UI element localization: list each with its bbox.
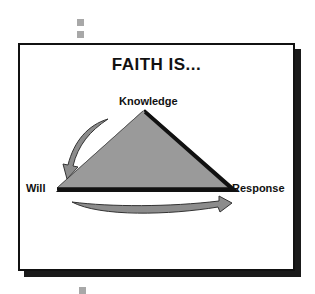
bullet-square-bottom xyxy=(79,287,86,294)
slide-panel: FAITH IS... Knowledge Will Response xyxy=(18,43,295,271)
bullet-square-top-1 xyxy=(77,19,84,26)
curved-arrow-will-to-response xyxy=(72,196,232,213)
label-knowledge: Knowledge xyxy=(119,95,178,107)
label-response: Response xyxy=(232,182,285,194)
faith-triangle xyxy=(57,111,230,188)
faith-triangle-diagram xyxy=(20,45,293,269)
bullet-square-top-2 xyxy=(77,31,84,38)
slide-frame: FAITH IS... Knowledge Will Response xyxy=(18,43,295,271)
label-will: Will xyxy=(26,182,45,194)
